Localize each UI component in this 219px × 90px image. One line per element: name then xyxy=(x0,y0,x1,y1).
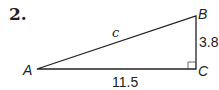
side-ac-length: 11.5 xyxy=(112,74,138,90)
triangle-shape xyxy=(37,16,196,69)
triangle-diagram: A B C c 3.8 11.5 xyxy=(0,0,219,90)
vertex-b-label: B xyxy=(198,6,207,22)
hypotenuse-label: c xyxy=(112,25,120,40)
right-angle-marker xyxy=(188,62,196,69)
vertex-a-label: A xyxy=(22,62,32,78)
side-bc-length: 3.8 xyxy=(199,34,219,50)
vertex-c-label: C xyxy=(198,63,209,79)
